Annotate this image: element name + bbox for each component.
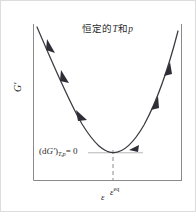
equation-open-paren: (d (39, 146, 47, 156)
y-axis-label: G′ (13, 83, 23, 92)
chart-title-prefix: 恒定的 (82, 23, 113, 34)
thermodynamics-figure: 恒定的T和p G′ ε εeq (dG′)T,p= 0 (0, 0, 196, 212)
arrow-right-2 (151, 96, 159, 110)
equation-result: = 0 (66, 146, 78, 156)
equation-gibbs-symbol: G′ (47, 146, 55, 156)
chart-title-pressure-symbol: p (128, 24, 133, 34)
equilibrium-superscript: eq (114, 186, 120, 192)
x-axis-equilibrium-label: εeq (110, 186, 119, 197)
arrow-left-3 (76, 110, 87, 121)
arrow-right-1 (129, 145, 139, 152)
x-axis-label: ε (101, 193, 105, 202)
equilibrium-condition-equation: (dG′)T,p= 0 (39, 147, 78, 157)
chart-title-conjunction: 和 (118, 23, 128, 34)
gibbs-energy-curve (37, 27, 178, 153)
equation-subscript: T,p (58, 150, 66, 157)
arrow-left-2 (60, 70, 69, 83)
chart-title: 恒定的T和p (82, 24, 133, 35)
